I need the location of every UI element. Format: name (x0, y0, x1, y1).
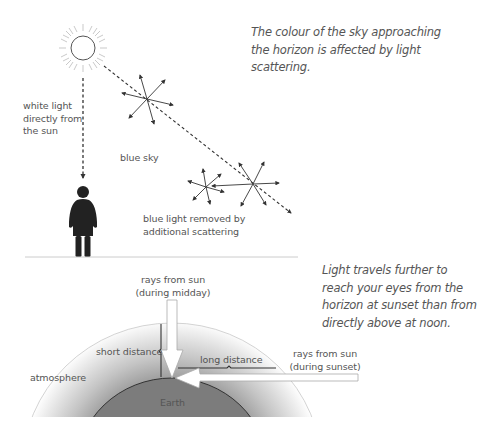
atmosphere-label: atmosphere (30, 372, 86, 385)
earth-label: Earth (160, 397, 185, 410)
rays-sunset-label: rays from sun (during sunset) (285, 348, 365, 373)
short-distance-label: short distance (96, 346, 162, 359)
sun-icon (59, 24, 107, 72)
scatter-star-icon (188, 169, 224, 204)
blue-light-removed-label: blue light removed by additional scatter… (143, 213, 245, 238)
distance-caption: Light travels further to reach your eyes… (322, 262, 489, 332)
rays-midday-label: rays from sun (during midday) (128, 274, 218, 299)
white-light-label: white light directly from the sun (23, 100, 82, 138)
scattering-caption: The colour of the sky approaching the ho… (251, 24, 481, 77)
blue-sky-label: blue sky (120, 152, 159, 165)
scatter-star-icon (122, 75, 173, 124)
scatter-star-icon (212, 162, 279, 206)
person-icon (69, 186, 97, 257)
scattered-light-arrow (104, 66, 291, 213)
long-distance-label: long distance (200, 354, 262, 367)
